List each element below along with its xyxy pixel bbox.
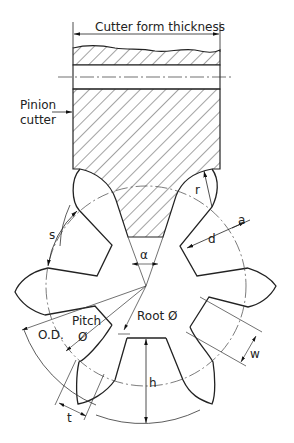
pinion-cutter-body xyxy=(58,46,234,237)
gear-diagram xyxy=(0,0,294,443)
r-dimension xyxy=(204,171,212,207)
gear-tooth-right xyxy=(190,268,276,327)
pinion-cutter-label-line2: cutter xyxy=(20,114,56,126)
s-label: s xyxy=(49,229,55,241)
pinion-cutter-label-line1: Pinion xyxy=(20,99,56,111)
t-label: t xyxy=(67,412,72,424)
a-label: a xyxy=(238,214,245,226)
gear-tooth-bottom-right xyxy=(166,327,215,404)
alpha-label: α xyxy=(140,249,148,261)
h-label: h xyxy=(149,377,157,389)
pitch-diameter-label-line1: Pitch xyxy=(72,315,101,327)
r-label: r xyxy=(195,184,200,196)
w-label: w xyxy=(250,348,260,360)
gear-tooth-top-left xyxy=(48,169,112,276)
d-label: d xyxy=(208,233,216,245)
root-diameter-label: Root Ø xyxy=(137,310,177,322)
t-dimension xyxy=(55,360,104,420)
pitch-diameter-label-line2: Ø xyxy=(78,331,87,343)
cutter-form-thickness-label: Cutter form thickness xyxy=(95,21,225,33)
outside-diameter-label: O.D. xyxy=(38,329,64,341)
